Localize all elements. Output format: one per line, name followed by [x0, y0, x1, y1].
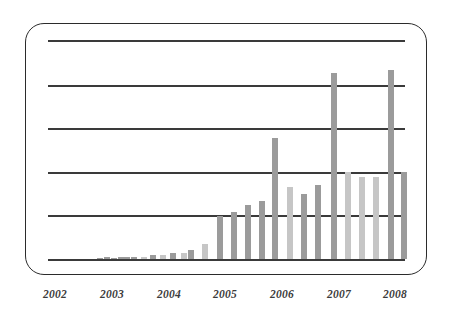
chart-figure: 2002200320042005200620072008 — [0, 0, 453, 323]
x-axis-label-2008: 2008 — [383, 288, 407, 300]
x-axis-label-2007: 2007 — [327, 288, 351, 300]
x-axis-label-2003: 2003 — [100, 288, 124, 300]
x-axis-label-2002: 2002 — [43, 288, 67, 300]
x-axis-label-2004: 2004 — [157, 288, 181, 300]
x-axis-label-2005: 2005 — [213, 288, 237, 300]
x-axis-tick-labels: 2002200320042005200620072008 — [0, 0, 453, 323]
x-axis-label-2006: 2006 — [270, 288, 294, 300]
